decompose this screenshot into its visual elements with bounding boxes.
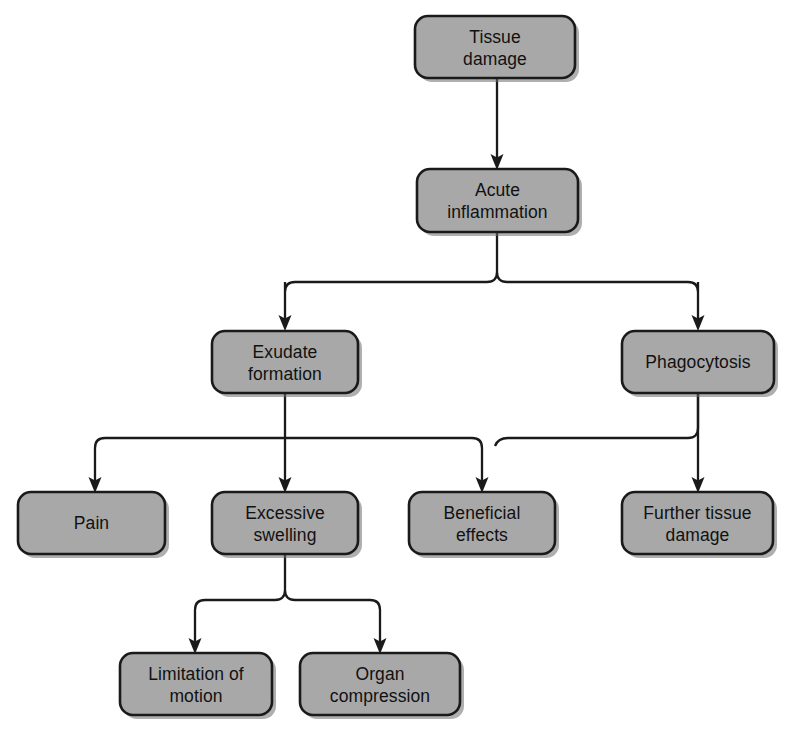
- edge-tissue-damage-to-acute-inflammation: [491, 78, 504, 170]
- node-box-organ-compression[interactable]: [300, 653, 460, 715]
- node-organ-compression[interactable]: Organ compression: [300, 653, 464, 719]
- node-label-exudate-formation-line1: Exudate: [253, 342, 318, 362]
- edge-phagocytosis-stem: [508, 393, 698, 438]
- node-label-limitation-of-motion-line1: Limitation of: [148, 664, 244, 684]
- node-exudate-formation[interactable]: Exudate formation: [212, 331, 362, 397]
- node-label-acute-inflammation-line2: inflammation: [447, 202, 547, 222]
- node-box-beneficial-effects[interactable]: [409, 492, 555, 554]
- edge-acute-inflammation-branch: [279, 232, 705, 331]
- node-label-phagocytosis-line1: Phagocytosis: [645, 352, 750, 372]
- node-label-limitation-of-motion-line2: motion: [169, 686, 222, 706]
- connector-layer: [89, 78, 705, 654]
- node-box-acute-inflammation[interactable]: [417, 169, 578, 232]
- node-label-further-tissue-damage-line1: Further tissue: [643, 503, 751, 523]
- node-box-exudate-formation[interactable]: [212, 331, 358, 393]
- node-box-further-tissue-damage[interactable]: [622, 492, 773, 554]
- node-label-further-tissue-damage-line2: damage: [666, 525, 730, 545]
- edge-excessive-swelling-branch: [189, 554, 387, 654]
- node-label-tissue-damage-line2: damage: [463, 49, 527, 69]
- node-label-tissue-damage-line1: Tissue: [469, 27, 521, 47]
- node-further-tissue-damage[interactable]: Further tissue damage: [622, 492, 777, 558]
- node-layer: Tissue damage Acute inflammation Exudate…: [18, 16, 778, 719]
- node-label-beneficial-effects-line1: Beneficial: [444, 503, 521, 523]
- node-label-exudate-formation-line2: formation: [248, 364, 322, 384]
- edge-exudate-formation-to-pain: [89, 438, 286, 493]
- node-label-beneficial-effects-line2: effects: [456, 525, 508, 545]
- node-pain[interactable]: Pain: [18, 492, 169, 558]
- node-label-pain-line1: Pain: [74, 513, 109, 533]
- node-label-excessive-swelling-line2: swelling: [253, 525, 316, 545]
- node-phagocytosis[interactable]: Phagocytosis: [622, 331, 778, 397]
- node-beneficial-effects[interactable]: Beneficial effects: [409, 492, 559, 558]
- node-label-acute-inflammation-line1: Acute: [475, 180, 520, 200]
- edge-to-beneficial-effects: [285, 438, 508, 493]
- flowchart-canvas: Tissue damage Acute inflammation Exudate…: [0, 0, 795, 737]
- node-acute-inflammation[interactable]: Acute inflammation: [417, 169, 582, 236]
- node-limitation-of-motion[interactable]: Limitation of motion: [120, 653, 276, 719]
- node-excessive-swelling[interactable]: Excessive swelling: [212, 492, 362, 558]
- edge-phagocytosis-to-further-tissue-damage: [692, 393, 705, 493]
- node-box-excessive-swelling[interactable]: [212, 492, 358, 554]
- node-box-limitation-of-motion[interactable]: [120, 653, 272, 715]
- flowchart-svg: Tissue damage Acute inflammation Exudate…: [0, 0, 795, 737]
- node-tissue-damage[interactable]: Tissue damage: [415, 16, 579, 82]
- node-label-excessive-swelling-line1: Excessive: [245, 503, 325, 523]
- node-label-organ-compression-line2: compression: [330, 686, 430, 706]
- node-label-organ-compression-line1: Organ: [355, 664, 404, 684]
- node-box-tissue-damage[interactable]: [415, 16, 575, 78]
- edge-exudate-formation-to-excessive-swelling: [279, 438, 292, 493]
